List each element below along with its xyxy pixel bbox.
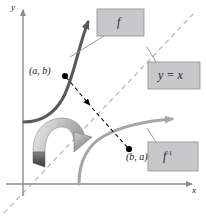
leader-line-f bbox=[70, 36, 104, 57]
callout-label-f-inverse: f-1 bbox=[163, 150, 172, 162]
line-y-equals-x bbox=[4, 11, 196, 213]
callout-label-y-equals-x: y = x bbox=[158, 69, 183, 81]
diagram-canvas bbox=[0, 0, 206, 217]
axis-label-y: y bbox=[11, 3, 15, 12]
callout-label-f-inverse-exponent: -1 bbox=[166, 149, 172, 157]
callout-box-f-inverse bbox=[148, 142, 198, 171]
point-label-ba: (b, a) bbox=[126, 152, 148, 162]
leader-line-f-inverse bbox=[147, 128, 156, 142]
inverse-function-diagram: y x (a, b) (b, a) f y = x f-1 bbox=[0, 0, 206, 217]
callout-label-f: f bbox=[117, 16, 120, 28]
point-label-ab: (a, b) bbox=[29, 66, 51, 76]
axis-label-x: x bbox=[192, 186, 196, 195]
point-ab-dot bbox=[62, 73, 68, 79]
callout-box-f bbox=[97, 9, 144, 36]
